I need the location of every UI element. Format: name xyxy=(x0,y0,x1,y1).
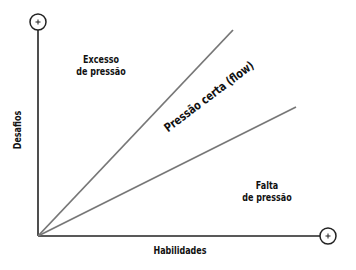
excess-label-line1: Excesso xyxy=(73,54,129,66)
lack-pressure-label: Falta de pressão xyxy=(239,180,295,204)
excess-label-line2: de pressão xyxy=(73,66,129,78)
x-axis-label: Habilidades xyxy=(148,245,212,257)
lack-label-line1: Falta xyxy=(239,180,295,192)
y-axis-plus-icon xyxy=(30,14,46,30)
y-axis-label: Desafios xyxy=(12,106,24,154)
excess-pressure-label: Excesso de pressão xyxy=(73,54,129,78)
x-axis-plus-icon xyxy=(320,228,336,244)
lack-label-line2: de pressão xyxy=(239,192,295,204)
upper-boundary-line xyxy=(38,30,233,236)
diagram-canvas xyxy=(0,0,356,270)
